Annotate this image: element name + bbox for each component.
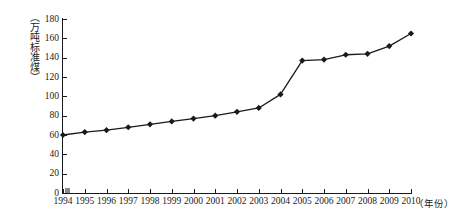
y-tick-mark — [63, 174, 67, 175]
series-line — [63, 34, 411, 136]
data-point-marker — [169, 118, 175, 124]
data-point-marker — [212, 113, 218, 119]
y-tick-mark — [63, 77, 67, 78]
x-tick-mark — [63, 189, 64, 193]
y-tick-mark — [63, 154, 67, 155]
line-chart: （万吨标准煤） 020406080100120140160180 1994199… — [0, 0, 458, 219]
x-tick-mark — [302, 189, 303, 193]
y-tick-label: 40 — [35, 149, 59, 159]
y-tick-label: 160 — [35, 33, 59, 43]
series-plot — [0, 0, 458, 219]
data-point-marker — [321, 57, 327, 63]
x-tick-mark — [172, 189, 173, 193]
data-point-marker — [103, 127, 109, 133]
data-point-marker — [190, 115, 196, 121]
y-tick-mark — [63, 19, 67, 20]
x-tick-mark — [281, 189, 282, 193]
x-axis-title: （年份） — [414, 196, 454, 210]
x-tick-mark — [389, 189, 390, 193]
data-point-marker — [343, 52, 349, 58]
y-tick-label: 180 — [35, 14, 59, 24]
x-tick-mark — [194, 189, 195, 193]
data-point-marker — [256, 105, 262, 111]
y-tick-label: 140 — [35, 52, 59, 62]
origin-series-marker — [65, 188, 70, 193]
x-axis-line — [62, 193, 412, 194]
data-point-marker — [125, 124, 131, 130]
y-tick-label: 100 — [35, 91, 59, 101]
x-tick-mark — [128, 189, 129, 193]
y-tick-mark — [63, 116, 67, 117]
x-tick-mark — [368, 189, 369, 193]
data-point-marker — [364, 51, 370, 57]
y-axis-line — [62, 18, 63, 194]
x-tick-mark — [215, 189, 216, 193]
x-tick-mark — [85, 189, 86, 193]
y-tick-label: 80 — [35, 110, 59, 120]
y-tick-mark — [63, 135, 67, 136]
y-tick-mark — [63, 193, 67, 194]
x-tick-mark — [237, 189, 238, 193]
data-point-marker — [82, 129, 88, 135]
data-point-marker — [234, 109, 240, 115]
y-tick-mark — [63, 96, 67, 97]
y-tick-label: 20 — [35, 168, 59, 178]
y-tick-mark — [63, 58, 67, 59]
series-markers — [60, 30, 414, 138]
data-point-marker — [299, 57, 305, 63]
data-point-marker — [277, 91, 283, 97]
data-point-marker — [147, 121, 153, 127]
x-tick-mark — [107, 189, 108, 193]
x-tick-mark — [150, 189, 151, 193]
data-point-marker — [408, 30, 414, 36]
x-tick-mark — [324, 189, 325, 193]
x-tick-mark — [346, 189, 347, 193]
y-tick-mark — [63, 38, 67, 39]
x-tick-mark — [411, 189, 412, 193]
y-tick-label: 120 — [35, 72, 59, 82]
y-tick-label: 60 — [35, 130, 59, 140]
data-point-marker — [386, 43, 392, 49]
x-tick-mark — [259, 189, 260, 193]
